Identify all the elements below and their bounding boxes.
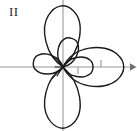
x-axis-arrow-icon [130, 63, 137, 71]
polar-rose-figure: II [0, 0, 137, 131]
outer-petal-lower-left [35, 2, 88, 69]
inner-petal-upper [54, 35, 82, 69]
polar-rose-plot [0, 0, 137, 131]
outer-petal-upper-left [35, 65, 88, 131]
figure-label: II [9, 4, 19, 19]
